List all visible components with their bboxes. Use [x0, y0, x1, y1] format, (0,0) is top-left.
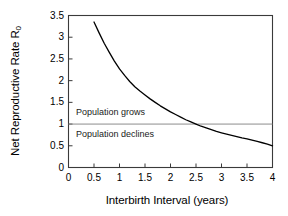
axis-ticks: [69, 37, 248, 167]
annotation-population-grows: Population grows: [76, 108, 145, 117]
figure: Net Reproductive Rate R0 00.511.522.533.…: [0, 0, 288, 216]
axes-frame: [69, 16, 273, 168]
annotation-population-declines: Population declines: [76, 130, 154, 139]
data-series: [94, 22, 273, 146]
plot-border: [69, 16, 273, 168]
series-line-0: [94, 22, 273, 146]
